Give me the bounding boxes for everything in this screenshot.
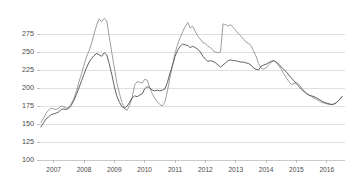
y-tick-label-225: 225 <box>22 65 34 74</box>
x-axis-tick-labels: 2007200820092010201120122013201420152016 <box>46 166 334 173</box>
x-tick-label-2008: 2008 <box>77 166 92 173</box>
y-tick-label-125: 125 <box>22 137 34 146</box>
x-tick-label-2011: 2011 <box>168 166 183 173</box>
y-tick-label-275: 275 <box>22 29 34 38</box>
x-tick-label-2016: 2016 <box>319 166 334 173</box>
x-axis <box>54 160 327 163</box>
chart-canvas: 100125150175200225250275 200720082009201… <box>0 0 358 191</box>
y-tick-label-150: 150 <box>22 119 34 128</box>
line-chart: 100125150175200225250275 200720082009201… <box>0 0 358 191</box>
x-tick-label-2014: 2014 <box>259 166 274 173</box>
y-axis-tick-labels: 100125150175200225250275 <box>22 29 34 164</box>
y-tick-label-200: 200 <box>22 83 34 92</box>
x-tick-label-2010: 2010 <box>137 166 152 173</box>
x-tick-label-2009: 2009 <box>107 166 122 173</box>
y-tick-label-175: 175 <box>22 101 34 110</box>
gridlines <box>37 34 345 160</box>
x-tick-label-2012: 2012 <box>198 166 213 173</box>
x-tick-label-2007: 2007 <box>46 166 61 173</box>
series-line-2 <box>41 44 342 127</box>
y-tick-label-250: 250 <box>22 47 34 56</box>
data-series <box>41 18 342 127</box>
x-tick-label-2013: 2013 <box>228 166 243 173</box>
x-tick-label-2015: 2015 <box>289 166 304 173</box>
y-tick-label-100: 100 <box>22 155 34 164</box>
